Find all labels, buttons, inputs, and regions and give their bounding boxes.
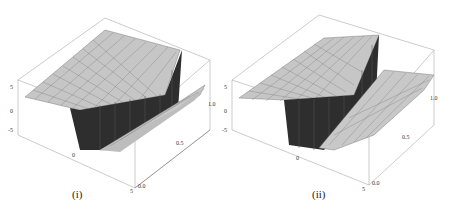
y-tick-1: 1.0 (430, 95, 438, 101)
z-tick-0: 0 (224, 108, 227, 114)
z-tick-0: 0 (10, 108, 13, 114)
plot-panel-ii: 5 0 -5 0 5 0.0 0.5 1.0 (ii) (224, 0, 449, 212)
y-tick-05: 0.5 (176, 140, 184, 146)
z-tick-5: 5 (224, 84, 227, 90)
y-tick-1: 1.0 (208, 101, 216, 107)
plot-panel-i: 5 0 -5 0 5 0.0 0.5 1.0 (i) (0, 0, 225, 212)
caption-ii: (ii) (312, 188, 325, 200)
caption-i: (i) (72, 188, 82, 200)
z-tick-neg5: -5 (8, 127, 13, 133)
x-tick-0: 0 (296, 155, 299, 161)
x-tick-5: 5 (130, 188, 133, 194)
x-tick-0: 0 (72, 152, 75, 158)
y-tick-0: 0.0 (372, 180, 380, 186)
y-tick-0: 0.0 (138, 183, 146, 189)
surface-plot-ii (224, 0, 449, 212)
surface-plot-i (0, 0, 225, 212)
x-tick-5: 5 (362, 186, 365, 192)
z-tick-neg5: -5 (222, 127, 227, 133)
z-tick-5: 5 (10, 84, 13, 90)
y-tick-05: 0.5 (402, 134, 410, 140)
